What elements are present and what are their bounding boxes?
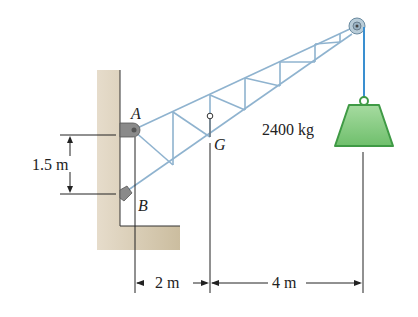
label-a: A: [131, 106, 141, 122]
dimension-horizontal: [135, 137, 363, 293]
pin-support-a: [120, 123, 140, 137]
truss-boom: [124, 28, 352, 193]
pulley: [349, 18, 365, 34]
label-b: B: [138, 198, 148, 214]
label-mass: 2400 kg: [262, 122, 314, 138]
weight: [335, 97, 393, 146]
label-dim-right: 4 m: [272, 275, 296, 291]
label-g: G: [214, 137, 226, 153]
label-dim-left: 2 m: [155, 275, 179, 291]
label-vertical-dim: 1.5 m: [32, 157, 68, 173]
